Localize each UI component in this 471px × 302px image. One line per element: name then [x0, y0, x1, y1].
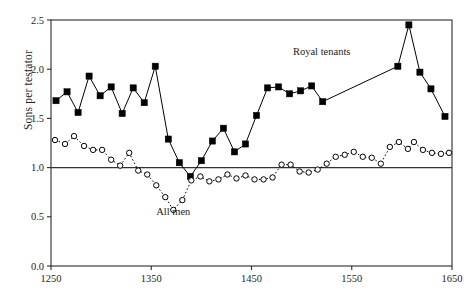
data-series-group	[52, 22, 451, 213]
data-point	[396, 139, 401, 144]
data-point	[395, 63, 401, 69]
series-line	[56, 25, 445, 177]
data-point	[126, 150, 131, 155]
data-point	[231, 149, 237, 155]
chart-canvas: 12501350145015501650 0.00.51.01.52.02.5 …	[0, 0, 471, 302]
data-point	[252, 177, 257, 182]
data-point	[417, 69, 423, 75]
data-point	[225, 172, 230, 177]
x-tick-label: 1650	[442, 273, 463, 284]
data-point	[446, 150, 451, 155]
data-point	[136, 168, 141, 173]
data-point	[81, 143, 86, 148]
data-point	[86, 73, 92, 79]
data-point	[288, 162, 293, 167]
data-point	[90, 147, 95, 152]
data-point	[189, 178, 194, 183]
data-point	[420, 147, 425, 152]
data-point	[405, 146, 410, 151]
y-tick-label: 0.5	[31, 211, 44, 222]
y-tick-label: 2.0	[31, 64, 44, 75]
data-point	[242, 141, 248, 147]
data-point	[117, 163, 122, 168]
data-point	[378, 161, 383, 166]
data-point	[243, 173, 248, 178]
data-point	[176, 160, 182, 166]
data-point	[53, 98, 59, 104]
data-point	[97, 93, 103, 99]
data-point	[62, 141, 67, 146]
data-point	[234, 176, 239, 181]
data-point	[108, 157, 113, 162]
data-point	[286, 91, 292, 97]
data-point	[298, 88, 304, 94]
x-tick-label: 1550	[341, 273, 362, 284]
data-point	[216, 177, 221, 182]
series-annotation: Royal tenants	[293, 46, 350, 57]
data-point	[165, 136, 171, 142]
y-tick-label: 1.5	[31, 113, 44, 124]
x-tick-label: 1350	[141, 273, 162, 284]
data-point	[279, 162, 284, 167]
data-point	[198, 174, 203, 179]
data-point	[163, 194, 168, 199]
data-point	[297, 169, 302, 174]
data-point	[119, 110, 125, 116]
data-point	[154, 183, 159, 188]
data-point	[264, 85, 270, 91]
y-tick-label: 0.0	[31, 261, 44, 272]
data-point	[320, 99, 326, 105]
data-point	[369, 155, 374, 160]
data-point	[145, 172, 150, 177]
data-point	[71, 133, 76, 138]
data-point	[141, 100, 147, 106]
series-all-men	[52, 133, 451, 212]
data-point	[324, 161, 329, 166]
y-tick-label: 2.5	[31, 15, 44, 26]
data-point	[64, 89, 70, 95]
data-point	[152, 63, 158, 69]
data-point	[342, 152, 347, 157]
data-point	[406, 22, 412, 28]
data-point	[360, 154, 365, 159]
data-point	[99, 147, 104, 152]
y-tick-label: 1.0	[31, 162, 44, 173]
x-axis-ticks: 12501350145015501650	[41, 266, 463, 284]
data-point	[429, 150, 434, 155]
data-point	[207, 179, 212, 184]
data-point	[130, 85, 136, 91]
annotations-group: Royal tenantsAll men	[156, 46, 350, 216]
chart-figure: Sons per testator 12501350145015501650 0…	[0, 0, 471, 302]
data-point	[220, 125, 226, 131]
chart-svg: 12501350145015501650 0.00.51.01.52.02.5 …	[0, 0, 471, 302]
data-point	[333, 154, 338, 159]
data-point	[387, 144, 392, 149]
y-axis-ticks: 0.00.51.01.52.02.5	[31, 15, 51, 272]
series-royal-tenants	[53, 22, 448, 180]
x-tick-label: 1450	[241, 273, 262, 284]
data-point	[275, 84, 281, 90]
data-point	[411, 139, 416, 144]
plot-frame	[51, 20, 452, 266]
data-point	[306, 170, 311, 175]
data-point	[438, 151, 443, 156]
data-point	[315, 167, 320, 172]
series-annotation: All men	[156, 206, 191, 217]
data-point	[75, 109, 81, 115]
data-point	[270, 175, 275, 180]
x-tick-label: 1250	[41, 273, 62, 284]
data-point	[180, 197, 185, 202]
data-point	[108, 84, 114, 90]
data-point	[198, 158, 204, 164]
data-point	[253, 112, 259, 118]
data-point	[351, 149, 356, 154]
data-point	[442, 113, 448, 119]
data-point	[209, 138, 215, 144]
data-point	[52, 137, 57, 142]
data-point	[309, 83, 315, 89]
data-point	[428, 86, 434, 92]
data-point	[261, 177, 266, 182]
